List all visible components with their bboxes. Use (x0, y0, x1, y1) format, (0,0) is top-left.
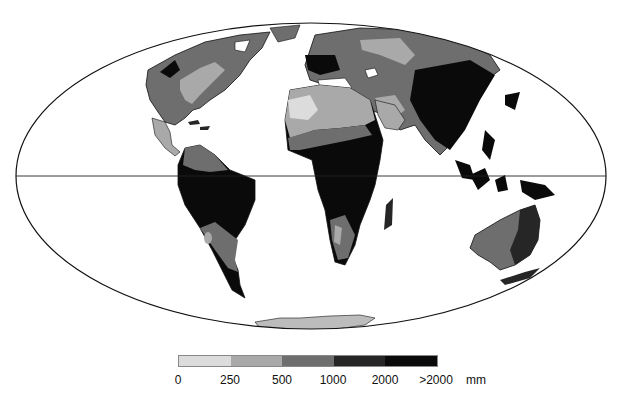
legend-segment-500-1000 (282, 356, 334, 366)
legend-segment-1000-2000 (334, 356, 386, 366)
legend-segment-over-2000 (385, 356, 437, 366)
precipitation-legend-bar (178, 355, 438, 367)
legend-tick: >2000 (419, 373, 453, 387)
north-america (146, 25, 300, 156)
legend-tick: 500 (272, 373, 292, 387)
world-precipitation-map (0, 0, 617, 340)
legend-segment-250-500 (231, 356, 283, 366)
australia (470, 205, 540, 285)
legend-tick: 250 (220, 373, 240, 387)
legend-tick: 1000 (320, 373, 347, 387)
legend-segment-0-250 (179, 356, 231, 366)
south-america (178, 145, 255, 298)
legend-tick-labels: 0 250 500 1000 2000 >2000 mm (0, 373, 617, 389)
caribbean (188, 120, 210, 130)
legend-tick: 2000 (372, 373, 399, 387)
legend-unit: mm (466, 373, 486, 387)
legend-tick: 0 (175, 373, 182, 387)
